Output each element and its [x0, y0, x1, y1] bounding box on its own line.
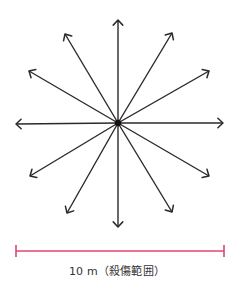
arrow-down-left-shallow: [30, 123, 118, 177]
blast-radius-diagram: [0, 0, 234, 283]
arrow-up-right-steep: [118, 33, 173, 123]
arrow-up: [113, 20, 123, 123]
scale-caption: 10 m（殺傷範囲）: [0, 262, 234, 278]
arrow-right: [118, 118, 223, 128]
arrow-down: [113, 123, 123, 227]
explosion-center-dot: [115, 120, 121, 126]
scale-bar: [16, 245, 224, 257]
arrow-up-left-steep: [64, 34, 118, 123]
arrow-left: [16, 119, 118, 129]
arrow-down-right-steep: [118, 123, 173, 212]
arrow-up-left-shallow: [29, 69, 118, 123]
arrow-down-left-steep: [65, 123, 118, 213]
arrow-down-right-shallow: [118, 123, 209, 178]
arrow-up-right-shallow: [118, 69, 209, 123]
